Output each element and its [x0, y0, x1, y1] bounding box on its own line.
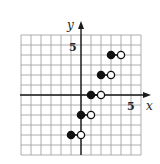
closed-dot-icon — [97, 71, 104, 78]
y-tick-label-5: 5 — [69, 41, 77, 54]
closed-dot-icon — [87, 91, 94, 98]
step-segment — [87, 91, 104, 98]
closed-dot-icon — [77, 111, 84, 118]
y-axis-arrow-icon — [78, 21, 84, 29]
step-segment — [97, 71, 114, 78]
axes: y 5 5 x — [20, 18, 153, 155]
step-segment — [67, 131, 84, 138]
step-segment — [107, 51, 124, 58]
open-dot-icon — [97, 91, 104, 98]
open-dot-icon — [117, 51, 124, 58]
x-axis-label: x — [146, 99, 153, 113]
closed-dot-icon — [107, 51, 114, 58]
y-axis-label: y — [66, 18, 74, 32]
step-segment — [77, 111, 94, 118]
open-dot-icon — [107, 71, 114, 78]
closed-dot-icon — [67, 131, 74, 138]
x-axis-arrow-icon — [143, 92, 151, 98]
open-dot-icon — [77, 131, 84, 138]
open-dot-icon — [87, 111, 94, 118]
step-function-chart: y 5 5 x — [0, 0, 160, 164]
x-tick-label-5: 5 — [127, 100, 135, 113]
